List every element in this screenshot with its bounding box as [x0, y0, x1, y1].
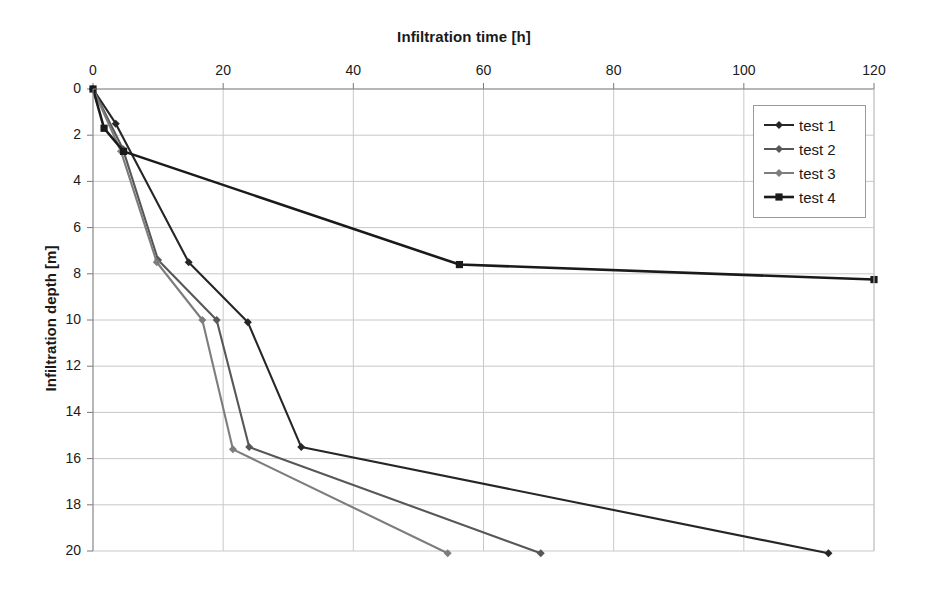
data-point-marker — [456, 261, 463, 268]
legend-item-test-1[interactable]: test 1 — [754, 113, 865, 137]
legend-item-test-4[interactable]: test 4 — [754, 185, 865, 209]
data-point-marker — [120, 148, 127, 155]
legend-label-test-2: test 2 — [799, 141, 836, 158]
legend-label-test-3: test 3 — [799, 165, 836, 182]
data-point-marker — [297, 443, 305, 451]
data-point-marker — [245, 443, 253, 451]
legend-swatch-test-3 — [763, 166, 795, 180]
legend-item-test-3[interactable]: test 3 — [754, 161, 865, 185]
data-point-marker — [229, 445, 237, 453]
legend-swatch-test-1 — [763, 118, 795, 132]
legend-label-test-1: test 1 — [799, 117, 836, 134]
legend-item-test-2[interactable]: test 2 — [754, 137, 865, 161]
series-line — [93, 89, 541, 553]
plot-area — [0, 0, 928, 597]
chart-legend: test 1 test 2 test 3 test 4 — [753, 105, 866, 218]
chart-container: Infiltration time [h] Infiltration depth… — [0, 0, 928, 597]
legend-swatch-test-4 — [763, 190, 795, 204]
legend-swatch-test-2 — [763, 142, 795, 156]
data-point-marker — [100, 125, 107, 132]
series-test-3 — [89, 85, 452, 557]
series-test-2 — [89, 85, 545, 557]
legend-label-test-4: test 4 — [799, 189, 836, 206]
